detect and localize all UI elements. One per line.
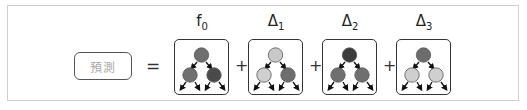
term-label-2: Δ2 <box>322 12 378 32</box>
tree-box-0 <box>174 39 229 95</box>
term-label-symbol: Δ <box>268 12 278 30</box>
term-label-3: Δ3 <box>396 12 452 32</box>
decision-tree-icon <box>397 40 452 96</box>
equals-sign: = <box>146 58 160 75</box>
term-label-symbol: Δ <box>342 12 352 30</box>
term-label-subscript: 3 <box>426 21 432 32</box>
prediction-box: 預測 <box>74 52 132 80</box>
tree-node-left <box>405 68 419 82</box>
term-label-subscript: 0 <box>201 21 207 32</box>
tree-node-right <box>207 68 221 82</box>
tree-box-2 <box>322 39 377 95</box>
tree-node-root <box>194 48 208 62</box>
term-label-subscript: 2 <box>352 21 358 32</box>
tree-node-left <box>331 68 345 82</box>
tree-node-root <box>416 48 430 62</box>
term-label-0: f0 <box>174 12 230 32</box>
tree-node-left <box>183 68 197 82</box>
tree-box-3 <box>396 39 451 95</box>
prediction-label: 預測 <box>90 58 116 75</box>
tree-box-1 <box>248 39 303 95</box>
tree-node-left <box>257 68 271 82</box>
plus-sign-0: + <box>235 58 248 74</box>
term-label-subscript: 1 <box>278 21 284 32</box>
tree-node-right <box>429 68 443 82</box>
decision-tree-icon <box>323 40 378 96</box>
decision-tree-icon <box>249 40 304 96</box>
tree-node-right <box>281 68 295 82</box>
term-label-1: Δ1 <box>248 12 304 32</box>
plus-sign-2: + <box>383 58 396 74</box>
tree-node-root <box>342 48 356 62</box>
tree-node-right <box>355 68 369 82</box>
term-label-symbol: Δ <box>416 12 426 30</box>
tree-node-root <box>268 48 282 62</box>
decision-tree-icon <box>175 40 230 96</box>
plus-sign-1: + <box>309 58 322 74</box>
